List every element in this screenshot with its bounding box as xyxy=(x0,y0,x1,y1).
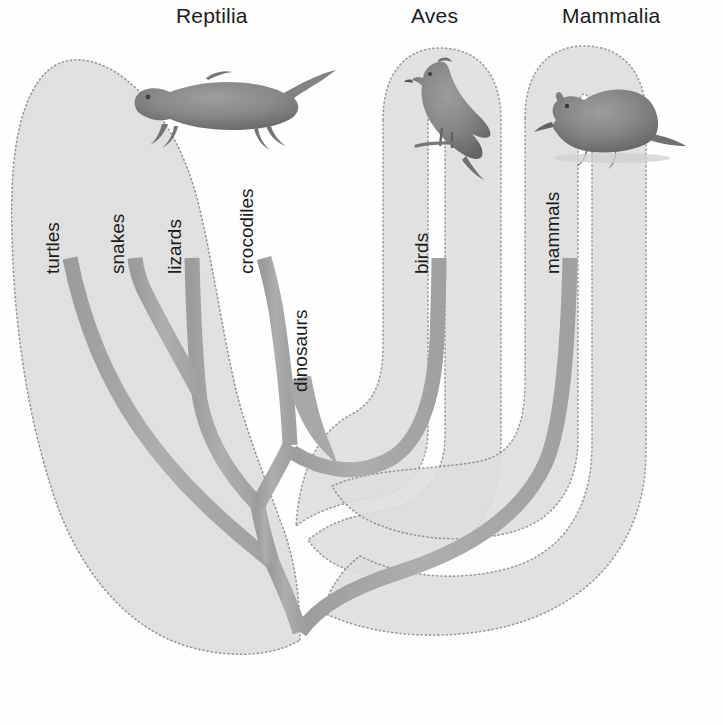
clade-region-reptilia xyxy=(12,60,300,655)
taxon-label-snakes: snakes xyxy=(107,214,129,274)
taxon-label-mammals: mammals xyxy=(542,192,564,274)
cladogram-figure: Reptilia Aves Mammalia turtles snakes li… xyxy=(0,0,723,725)
taxon-label-dinosaurs: dinosaurs xyxy=(290,310,312,392)
branch-crocodiles xyxy=(264,258,290,445)
clade-title-aves: Aves xyxy=(411,4,458,28)
clade-title-mammalia: Mammalia xyxy=(562,4,660,28)
clade-title-reptilia: Reptilia xyxy=(176,4,248,28)
mammal-illustration xyxy=(534,89,686,169)
cladogram-canvas xyxy=(0,0,723,725)
clade-envelopes xyxy=(12,46,646,654)
taxon-label-birds: birds xyxy=(411,233,433,274)
taxon-label-lizards: lizards xyxy=(164,219,186,274)
taxon-label-crocodiles: crocodiles xyxy=(236,188,258,274)
taxon-label-turtles: turtles xyxy=(42,222,64,274)
